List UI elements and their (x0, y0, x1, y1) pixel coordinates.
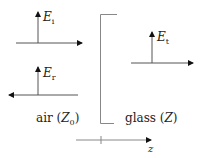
incident-field-label: Ei (42, 10, 55, 26)
glass-medium-label: glass (Z) (125, 111, 178, 125)
incident-wave: Ei (16, 10, 82, 43)
transmitted-field-label: Et (156, 30, 170, 46)
reflected-field-label: Er (42, 66, 56, 82)
glass-interface-boundary (101, 15, 118, 124)
reflection-transmission-diagram: Ei Er Et air (Z0) glass (Z) z (0, 0, 204, 158)
transmitted-wave: Et (131, 30, 193, 63)
reflected-wave: Er (9, 66, 78, 95)
z-axis-label: z (147, 143, 154, 154)
z-axis: z (76, 136, 154, 154)
air-medium-label: air (Z0) (36, 111, 79, 127)
